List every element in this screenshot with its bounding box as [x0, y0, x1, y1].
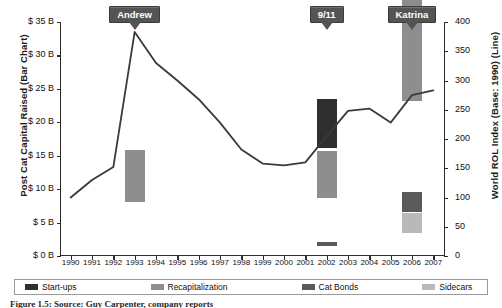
y-axis-left-tick-label: $ 20 B — [28, 116, 54, 126]
y-axis-right-tick-label: 0 — [455, 250, 460, 260]
y-axis-right-tickmark — [444, 51, 448, 52]
annotation-arrow-icon — [321, 22, 333, 30]
chart-legend: Start-upsRecapitalizationCat BondsSideca… — [14, 279, 488, 295]
y-axis-right-tick-label: 50 — [455, 221, 465, 231]
y-axis-right-tick-label: 100 — [455, 192, 470, 202]
legend-swatch-icon — [422, 284, 435, 290]
y-axis-right-tick-label: 350 — [455, 45, 470, 55]
annotation-arrow-icon — [129, 22, 141, 30]
annotation-9-11: 9/11 — [310, 6, 344, 23]
y-axis-right-tick-label: 400 — [455, 16, 470, 26]
annotation-label: 9/11 — [310, 6, 344, 23]
annotation-andrew: Andrew — [109, 6, 160, 23]
y-axis-right-ticks: 050100150200250300350400 — [446, 0, 486, 308]
y-axis-right-tick-label: 200 — [455, 133, 470, 143]
legend-label: Sidecars — [439, 282, 472, 292]
y-axis-right-tick-label: 300 — [455, 75, 470, 85]
y-axis-right-tickmark — [444, 256, 448, 257]
y-axis-right-tickmark — [444, 227, 448, 228]
y-axis-left-tick-label: $ 25 B — [28, 83, 54, 93]
x-axis-ticks: 1990199119921993199419951996199719981999… — [60, 258, 444, 274]
y-axis-left-tickmark — [57, 256, 61, 257]
y-axis-right-title: World ROL Index (Base: 1990) (Line) — [489, 31, 500, 201]
annotation-arrow-icon — [406, 22, 418, 30]
plot-area — [60, 22, 444, 256]
chart-figure: Post Cat Capital Raised (Bar Chart) Worl… — [0, 0, 502, 308]
legend-swatch-icon — [151, 284, 164, 290]
y-axis-right-tick-label: 150 — [455, 162, 470, 172]
y-axis-right-tickmark — [444, 168, 448, 169]
y-axis-right-tickmark — [444, 81, 448, 82]
y-axis-right-tickmark — [444, 110, 448, 111]
legend-item-start-ups[interactable]: Start-ups — [25, 282, 77, 292]
y-axis-left-tick-label: $ 5 B — [33, 217, 54, 227]
legend-label: Cat Bonds — [319, 282, 359, 292]
annotation-label: Andrew — [109, 6, 160, 23]
y-axis-right-tickmark — [444, 198, 448, 199]
legend-swatch-icon — [302, 284, 315, 290]
y-axis-left-tick-label: $ 0 B — [33, 250, 54, 260]
legend-label: Recapitalization — [168, 282, 228, 292]
y-axis-left-tick-label: $ 15 B — [28, 150, 54, 160]
legend-swatch-icon — [25, 284, 38, 290]
annotation-label: Katrina — [388, 6, 437, 23]
y-axis-right-tickmark — [444, 22, 448, 23]
y-axis-right-tickmark — [444, 139, 448, 140]
figure-caption: Figure 1.5: Source: Guy Carpenter, compa… — [10, 299, 213, 308]
line-world-rol-index — [71, 32, 434, 198]
annotation-katrina: Katrina — [388, 6, 437, 23]
legend-item-recapitalization[interactable]: Recapitalization — [151, 282, 228, 292]
y-axis-left-ticks: $ 0 B$ 5 B$ 10 B$ 15 B$ 20 B$ 25 B$ 30 B… — [0, 0, 54, 308]
y-axis-left-tick-label: $ 10 B — [28, 183, 54, 193]
legend-label: Start-ups — [42, 282, 77, 292]
line-layer — [60, 22, 444, 256]
y-axis-right-tick-label: 250 — [455, 104, 470, 114]
y-axis-left-tick-label: $ 35 B — [28, 16, 54, 26]
legend-item-cat-bonds[interactable]: Cat Bonds — [302, 282, 359, 292]
legend-item-sidecars[interactable]: Sidecars — [422, 282, 472, 292]
y-axis-left-tick-label: $ 30 B — [28, 49, 54, 59]
x-axis-tick-label: 2007 — [418, 258, 448, 267]
